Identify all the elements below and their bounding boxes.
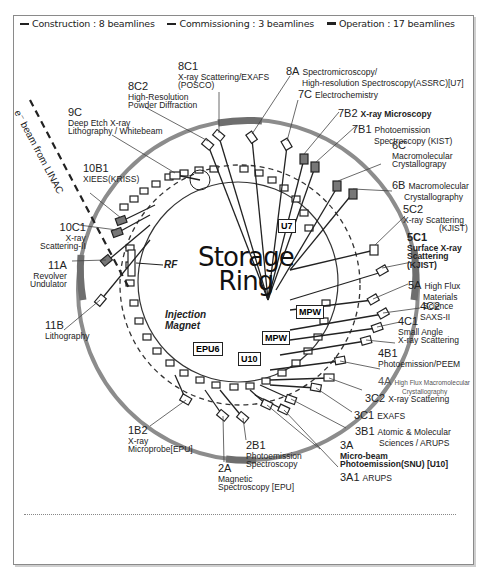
beamline-7B2: 7B2X-ray Microscopy (338, 104, 431, 121)
injection-magnet-label: Injection Magnet (165, 310, 206, 331)
beamline-10B1: 10B1 XIEES(KRISS) (83, 163, 139, 183)
tag-mpw-2: MPW (262, 331, 290, 345)
beamline-8C2: 8C2 High-Resolution Powder Diffraction (128, 81, 197, 110)
beamline-4B1: 4B1 Photoemission/PEEM (378, 348, 460, 368)
beamline-4C1: 4C1 Small Angle X-ray Scattering (398, 316, 459, 345)
beamline-3C1: 3C1EXAFS (354, 406, 405, 423)
beamline-8A: 8ASpectromicroscopy/ High-resolution Spe… (286, 62, 464, 88)
wall-segment-left (80, 255, 83, 300)
beamline-3C2: 3C2X-ray Scattering (365, 389, 449, 406)
beamline-6B: 6BMacromolecular Crystallography (392, 176, 469, 202)
beamline-5C2: 5C2 X-ray Scattering (KJIST) (403, 204, 468, 233)
wall-segment-top (218, 120, 262, 123)
beamline-7C: 7CElectrochemistry (298, 85, 378, 102)
beamline-3A: 3A Micro-beam Photoemission(SNU) [U10] (340, 440, 448, 469)
tag-u10: U10 (238, 352, 261, 366)
beamline-6C: 6C Macromolecular Crystallograpy (392, 140, 452, 169)
dotted-divider (24, 514, 456, 515)
beamline-10C1: 10C1 X-ray Scattering-II (40, 222, 86, 251)
tag-mpw-1: MPW (296, 305, 324, 319)
beamline-3A1: 3A1ARUPS (340, 468, 392, 485)
beamline-11A: 11A Revolver Undulator (30, 260, 67, 289)
beamline-5C1: 5C1 Surface X-ray Scattering (KJIST) (407, 232, 462, 270)
beamline-1B2: 1B2 X-ray Microprobe[EPU] (128, 425, 193, 454)
beamline-11B: 11B Lithography (45, 320, 89, 340)
beamline-9C: 9C Deep Etch X-ray Lithography / Whitebe… (68, 107, 163, 136)
rf-label: RF (164, 260, 177, 271)
beamline-2A: 2A Magnetic Spectroscopy [EPU] (218, 463, 294, 492)
tag-epu6: EPU6 (193, 342, 223, 356)
storage-ring-title: Storage Ring (186, 245, 306, 293)
tag-u7: U7 (278, 219, 296, 233)
